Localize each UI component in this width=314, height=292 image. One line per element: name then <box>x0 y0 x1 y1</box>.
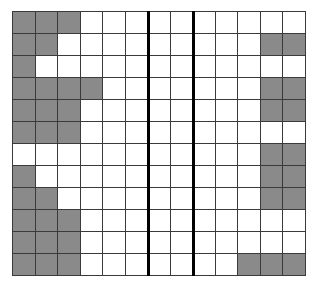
grid-cell-shaded <box>35 231 58 253</box>
grid-cell-empty <box>147 165 170 187</box>
grid-cell-empty <box>215 187 238 209</box>
grid-cell-empty <box>192 209 215 231</box>
grid-cell-empty <box>102 55 125 77</box>
grid-cell-empty <box>215 77 238 99</box>
grid-cell-shaded <box>12 77 35 99</box>
grid-cell-shaded <box>12 253 35 275</box>
grid-cell-shaded <box>260 99 283 121</box>
grid-cell-shaded <box>57 11 80 33</box>
grid-cell-empty <box>237 165 260 187</box>
grid-cell-empty <box>80 33 103 55</box>
grid-cell-empty <box>237 209 260 231</box>
grid-cell-empty <box>170 55 193 77</box>
grid-cell-shaded <box>260 77 283 99</box>
grid-cell-empty <box>215 55 238 77</box>
grid-cell-shaded <box>12 99 35 121</box>
grid-cell-shaded <box>57 121 80 143</box>
grid-cell-empty <box>147 55 170 77</box>
grid-cell-empty <box>80 55 103 77</box>
grid-cell-empty <box>125 231 148 253</box>
grid-cell-empty <box>237 33 260 55</box>
grid-cell-empty <box>237 231 260 253</box>
grid-cell-shaded <box>35 209 58 231</box>
grid-cell-empty <box>192 187 215 209</box>
grid-cell-empty <box>125 77 148 99</box>
grid-cell-empty <box>80 99 103 121</box>
grid-cell-empty <box>237 121 260 143</box>
grid-cell-empty <box>125 143 148 165</box>
grid-cell-shaded <box>35 121 58 143</box>
grid-cell-empty <box>237 77 260 99</box>
grid-cell-empty <box>170 11 193 33</box>
grid-cell-empty <box>237 55 260 77</box>
grid-cell-empty <box>57 187 80 209</box>
grid-cell-shaded <box>237 253 260 275</box>
grid-cell-empty <box>35 55 58 77</box>
grid-cell-empty <box>170 33 193 55</box>
grid-cell-empty <box>170 121 193 143</box>
grid-cell-empty <box>170 165 193 187</box>
grid-cell-empty <box>102 77 125 99</box>
grid-cell-empty <box>192 99 215 121</box>
grid-cell-empty <box>147 253 170 275</box>
grid-cell-empty <box>12 143 35 165</box>
grid-cell-empty <box>147 33 170 55</box>
grid-cell-shaded <box>282 99 305 121</box>
grid-cell-empty <box>80 209 103 231</box>
grid-cell-empty <box>215 121 238 143</box>
grid-cell-empty <box>125 11 148 33</box>
grid-cell-empty <box>260 11 283 33</box>
grid-cell-shaded <box>260 33 283 55</box>
grid-cell-shaded <box>57 99 80 121</box>
grid-cell-empty <box>260 55 283 77</box>
grid-cell-shaded <box>260 187 283 209</box>
grid-cell-shaded <box>282 165 305 187</box>
grid-cell-empty <box>282 231 305 253</box>
grid-cell-empty <box>170 253 193 275</box>
grid-cell-empty <box>215 33 238 55</box>
grid-cell-empty <box>147 11 170 33</box>
grid-cell-empty <box>192 253 215 275</box>
grid-cell-empty <box>147 231 170 253</box>
grid-cell-shaded <box>260 143 283 165</box>
grid-cell-empty <box>147 121 170 143</box>
grid-cell-shaded <box>35 187 58 209</box>
grid-cell-shaded <box>12 231 35 253</box>
grid-cell-empty <box>102 11 125 33</box>
grid-cell-empty <box>215 99 238 121</box>
grid-cell-empty <box>170 187 193 209</box>
grid-cell-empty <box>282 55 305 77</box>
grid-cell-shaded <box>12 33 35 55</box>
grid-cell-empty <box>102 33 125 55</box>
grid-cell-shaded <box>282 33 305 55</box>
grid-cell-shaded <box>57 253 80 275</box>
grid-cell-empty <box>215 143 238 165</box>
grid-cell-empty <box>237 99 260 121</box>
grid-cell-empty <box>215 231 238 253</box>
grid-cell-empty <box>170 77 193 99</box>
grid-cell-empty <box>102 143 125 165</box>
grid-cell-shaded <box>35 99 58 121</box>
grid-cell-empty <box>125 187 148 209</box>
grid-cell-empty <box>147 143 170 165</box>
grid-cell-shaded <box>260 165 283 187</box>
grid-cell-shaded <box>35 77 58 99</box>
grid-cell-empty <box>215 209 238 231</box>
grid-cell-empty <box>170 209 193 231</box>
grid-cell-empty <box>282 121 305 143</box>
grid-cell-empty <box>80 121 103 143</box>
thick-divider-line <box>147 11 150 276</box>
grid-cell-empty <box>102 209 125 231</box>
grid-cell-empty <box>282 11 305 33</box>
grid-cell-empty <box>215 165 238 187</box>
grid-cell-empty <box>35 143 58 165</box>
grid-cell-empty <box>147 209 170 231</box>
grid-cell-shaded <box>57 209 80 231</box>
shaded-cell-grid <box>12 11 306 276</box>
grid-cell-empty <box>102 99 125 121</box>
grid-cell-empty <box>80 231 103 253</box>
grid-cell-empty <box>192 165 215 187</box>
grid-cell-empty <box>102 121 125 143</box>
grid-cell-empty <box>57 143 80 165</box>
grid-cell-empty <box>57 165 80 187</box>
